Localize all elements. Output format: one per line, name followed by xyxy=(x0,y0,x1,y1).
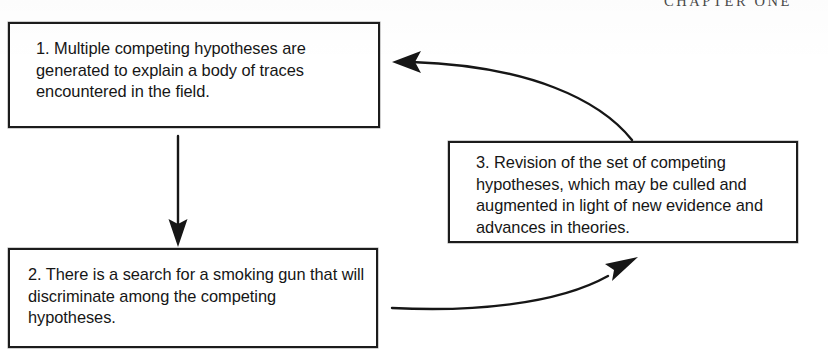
flow-box-step-3: 3. Revision of the set of competing hypo… xyxy=(448,141,798,243)
arrow-step1-to-step2-icon xyxy=(169,136,188,247)
flow-box-step-3-text: 3. Revision of the set of competing hypo… xyxy=(476,152,796,238)
flow-box-step-1-text: 1. Multiple competing hypotheses are gen… xyxy=(36,38,366,103)
arrow-step2-to-step3-icon xyxy=(392,257,638,309)
arrow-step3-to-step1-icon xyxy=(392,51,632,140)
flow-box-step-2-text: 2. There is a search for a smoking gun t… xyxy=(28,264,368,329)
flow-box-step-1: 1. Multiple competing hypotheses are gen… xyxy=(8,22,380,128)
scanned-page: CHAPTER ONE 1. Multiple competing hypoth… xyxy=(0,0,828,363)
flow-box-step-2: 2. There is a search for a smoking gun t… xyxy=(8,248,378,348)
running-head: CHAPTER ONE xyxy=(640,0,816,10)
